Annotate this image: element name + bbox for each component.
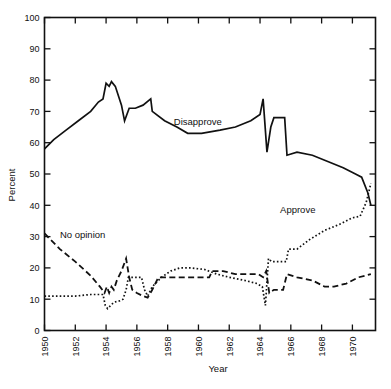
series-label-approve: Approve: [280, 204, 315, 215]
x-tick-label-1964: 1964: [255, 337, 265, 357]
y-tick-label-60: 60: [29, 138, 39, 148]
y-tick-label-20: 20: [29, 263, 39, 273]
x-axis-title: Year: [208, 363, 227, 374]
plot-frame: [45, 18, 376, 331]
series-line-disapprove: [45, 82, 371, 206]
series-label-disapprove: Disapprove: [174, 116, 222, 127]
y-tick-label-10: 10: [29, 295, 39, 305]
series-line-approve: [45, 183, 371, 308]
x-tick-label-1968: 1968: [317, 337, 327, 357]
y-tick-label-30: 30: [29, 232, 39, 242]
x-axis-ticks: 1950195219541956195819601962196419661968…: [40, 18, 358, 357]
x-tick-label-1958: 1958: [163, 337, 173, 357]
x-tick-label-1962: 1962: [225, 337, 235, 357]
x-tick-label-1956: 1956: [132, 337, 142, 357]
y-tick-label-50: 50: [29, 169, 39, 179]
y-axis-title: Percent: [6, 168, 17, 201]
y-tick-label-70: 70: [29, 107, 39, 117]
chart-figure: 0102030405060708090100 19501952195419561…: [0, 0, 391, 389]
y-tick-label-0: 0: [34, 326, 39, 336]
y-tick-label-90: 90: [29, 44, 39, 54]
series-line-no-opinion: [45, 233, 371, 297]
x-tick-label-1966: 1966: [286, 337, 296, 357]
y-tick-label-40: 40: [29, 201, 39, 211]
x-tick-label-1950: 1950: [40, 337, 50, 357]
y-tick-label-100: 100: [24, 13, 39, 23]
series-labels: DisapproveApproveNo opinion: [60, 116, 316, 240]
x-tick-label-1970: 1970: [348, 337, 358, 357]
x-tick-label-1954: 1954: [101, 337, 111, 357]
y-axis-ticks: 0102030405060708090100: [24, 13, 375, 336]
y-tick-label-80: 80: [29, 75, 39, 85]
x-tick-label-1952: 1952: [71, 337, 81, 357]
poll-approval-line-chart: 0102030405060708090100 19501952195419561…: [0, 0, 391, 389]
x-tick-label-1960: 1960: [194, 337, 204, 357]
series-label-no-opinion: No opinion: [60, 229, 105, 240]
